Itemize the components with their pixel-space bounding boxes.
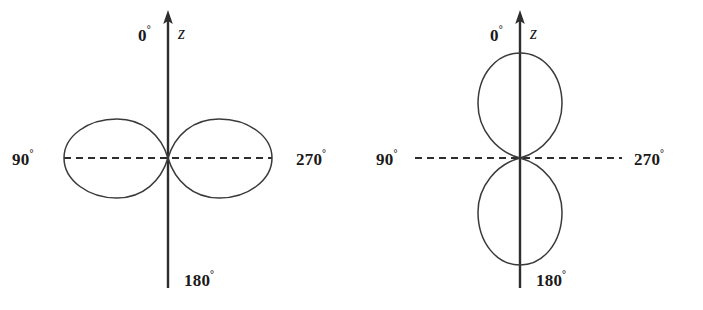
angle-label-270-right: 270° [634,150,664,168]
degree-symbol-icon: ° [147,24,151,35]
angle-label-270-left: 270° [296,150,326,168]
degree-symbol-icon: ° [322,148,326,159]
degree-symbol-icon: ° [29,148,33,159]
radiation-pattern-figure-left: 0° z 90° 270° 180° [0,0,352,310]
degree-symbol-icon: ° [393,148,397,159]
degree-symbol-icon: ° [562,269,566,280]
angle-label-180-left-value: 180 [184,271,210,290]
angle-label-270-left-value: 270 [296,150,322,169]
angle-label-0-left-value: 0 [138,26,147,45]
z-axis-label-right: z [530,24,537,42]
angle-label-180-left: 180° [184,271,214,289]
angle-label-0-right: 0° [490,26,503,44]
angle-label-180-right-value: 180 [536,271,562,290]
angle-label-90-left-value: 90 [12,150,29,169]
degree-symbol-icon: ° [499,24,503,35]
degree-symbol-icon: ° [210,269,214,280]
angle-label-0-left: 0° [138,26,151,44]
angle-label-180-right: 180° [536,271,566,289]
radiation-pattern-figure-right: 0° z 90° 270° 180° [351,0,703,310]
angle-label-90-left: 90° [12,150,34,168]
angle-label-90-right-value: 90 [376,150,393,169]
angle-label-270-right-value: 270 [634,150,660,169]
figure-page: 0° z 90° 270° 180° 0° z 90° 270° 180° [0,0,703,310]
z-axis-label-left: z [178,24,185,42]
angle-label-0-right-value: 0 [490,26,499,45]
degree-symbol-icon: ° [660,148,664,159]
angle-label-90-right: 90° [376,150,398,168]
